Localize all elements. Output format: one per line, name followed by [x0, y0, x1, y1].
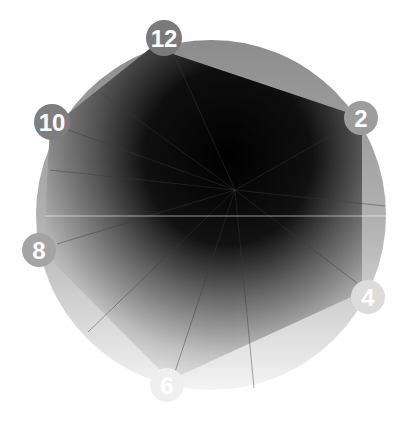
badge-6: 6: [150, 368, 184, 402]
badge-label: 10: [39, 109, 66, 136]
badge-8: 8: [22, 233, 56, 267]
badge-label: 12: [151, 25, 178, 52]
badge-label: 8: [32, 237, 45, 264]
badge-label: 4: [361, 284, 375, 311]
badge-12: 12: [146, 20, 182, 56]
badge-10: 10: [34, 104, 70, 140]
clock-hexagon-graphic: 12 2 4 6 8 10: [0, 0, 406, 423]
badge-label: 2: [354, 105, 367, 132]
badge-4: 4: [351, 280, 385, 314]
badge-2: 2: [344, 101, 378, 135]
badge-label: 6: [160, 372, 173, 399]
